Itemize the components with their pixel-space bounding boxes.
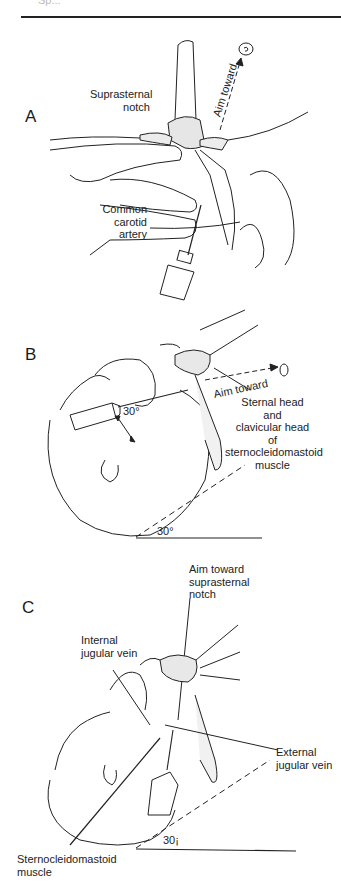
- label-line: sternocleidomastoid: [225, 446, 320, 459]
- panel-a-drawing: [50, 41, 308, 300]
- label-line: jugular vein: [276, 759, 332, 772]
- label-suprasternal-notch: Suprasternal notch: [90, 88, 150, 113]
- label-line: Common carotid: [67, 203, 147, 228]
- label-line: jugular vein: [81, 647, 137, 660]
- label-line: of: [225, 434, 320, 447]
- panel-label-a: A: [25, 107, 36, 127]
- label-external-jugular-vein: External jugular vein: [276, 746, 332, 771]
- label-line: Sternocleidomastoid: [17, 853, 117, 866]
- label-sternocleidomastoid-muscle: Sternocleidomastoid muscle: [17, 853, 117, 878]
- label-line: Aim toward: [189, 563, 250, 576]
- label-line: muscle: [225, 459, 320, 472]
- label-line: artery: [67, 228, 147, 241]
- label-line: Internal: [81, 634, 137, 647]
- target-icon: [239, 43, 253, 55]
- label-line: External: [276, 746, 332, 759]
- label-angle-syringe-b: 30°: [123, 405, 140, 418]
- label-line: notch: [189, 588, 250, 601]
- label-line: suprasternal: [189, 576, 250, 589]
- syringe-icon: [148, 730, 178, 815]
- label-line: clavicular head: [225, 421, 320, 434]
- label-line: muscle: [17, 866, 117, 879]
- target-icon: [280, 364, 288, 376]
- label-line: notch: [90, 101, 150, 114]
- panel-label-c: C: [22, 598, 34, 618]
- label-line: Suprasternal: [90, 88, 150, 101]
- label-line: Sternal head: [225, 396, 320, 409]
- panel-label-b: B: [25, 345, 36, 365]
- label-line: and: [225, 409, 320, 422]
- label-sternal-clavicular-head: Sternal head and clavicular head of ster…: [225, 396, 320, 471]
- label-aim-toward-notch: Aim toward suprasternal notch: [189, 563, 250, 601]
- label-internal-jugular-vein: Internal jugular vein: [81, 634, 137, 659]
- syringe-icon: [160, 205, 201, 300]
- label-common-carotid-artery: Common carotid artery: [67, 203, 147, 241]
- label-angle-base-b: 30°: [157, 525, 174, 538]
- label-angle-base-c: 30¡: [163, 834, 179, 847]
